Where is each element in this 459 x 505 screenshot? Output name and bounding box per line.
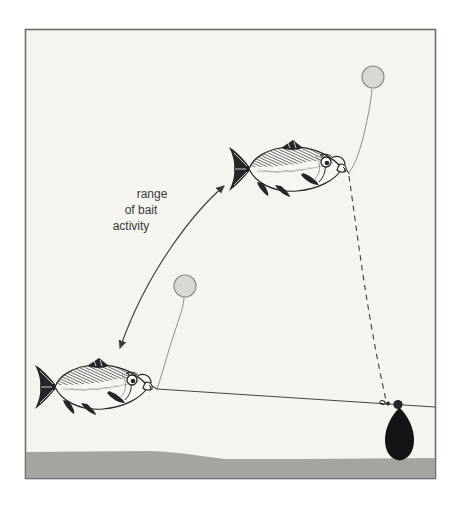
buoyant-bait-upper — [362, 66, 384, 88]
range-label-line-3: activity — [113, 219, 150, 233]
picture-frame — [26, 30, 436, 479]
diagram-canvas: range of bait activity — [0, 0, 459, 505]
buoyant-bait-lower — [174, 275, 196, 297]
range-label-line-1: range — [137, 187, 168, 201]
range-label-line-2: of bait — [125, 203, 158, 217]
bead — [393, 400, 402, 409]
